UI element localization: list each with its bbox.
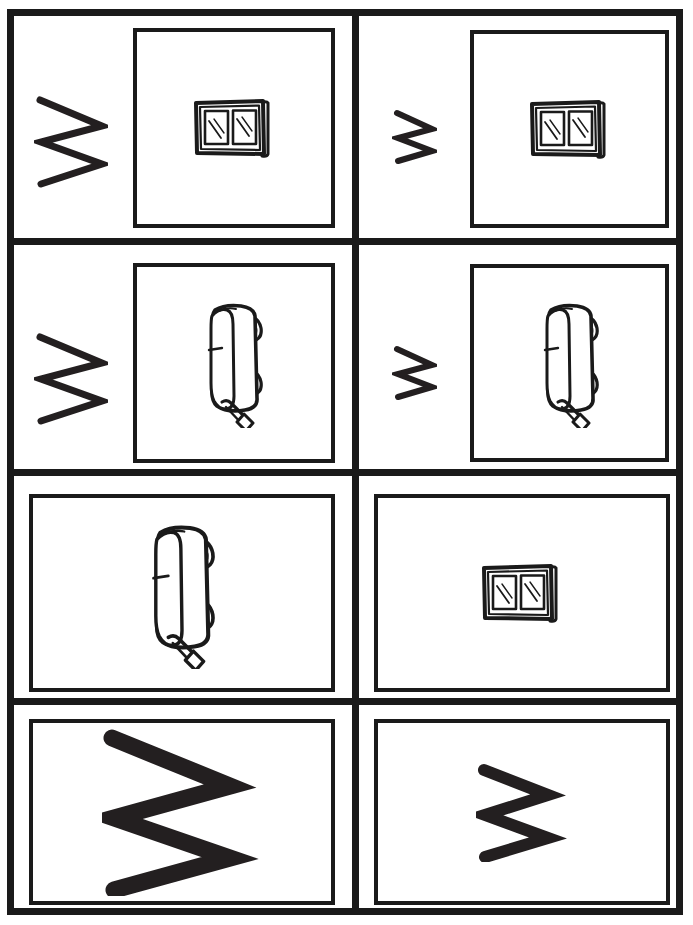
picture-frame [133,263,335,463]
worksheet-cell-r1c2[interactable] [352,16,676,238]
picture-frame [29,719,335,905]
zigzag-letter-w-huge [102,728,262,896]
worksheet-cell-r4c2[interactable] [352,698,676,908]
worksheet-cell-r3c1[interactable] [14,469,352,698]
picture-frame [470,264,669,462]
picture-frame [374,719,670,905]
worksheet-grid [14,16,676,908]
wagon-clipart [141,517,223,669]
zigzag-letter-w-medium [476,762,568,862]
zigzag-letter-w-large [34,94,108,190]
zigzag-letter-w-large [34,331,108,427]
wagon-clipart [198,298,270,428]
worksheet-cell-r2c1[interactable] [14,238,352,469]
wagon-clipart [534,298,606,428]
zigzag-letter-w-small [392,108,437,166]
worksheet-page [0,0,693,925]
worksheet-cell-r2c2[interactable] [352,238,676,469]
picture-frame [133,28,335,228]
picture-frame [29,494,335,692]
worksheet-cell-r3c2[interactable] [352,469,676,698]
worksheet-cell-r4c1[interactable] [14,698,352,908]
window-clipart [527,98,613,160]
picture-frame [470,30,669,228]
picture-frame [374,494,670,692]
window-clipart [191,97,277,159]
zigzag-letter-w-small [392,344,437,402]
worksheet-cell-r1c1[interactable] [14,16,352,238]
window-clipart [479,562,565,624]
